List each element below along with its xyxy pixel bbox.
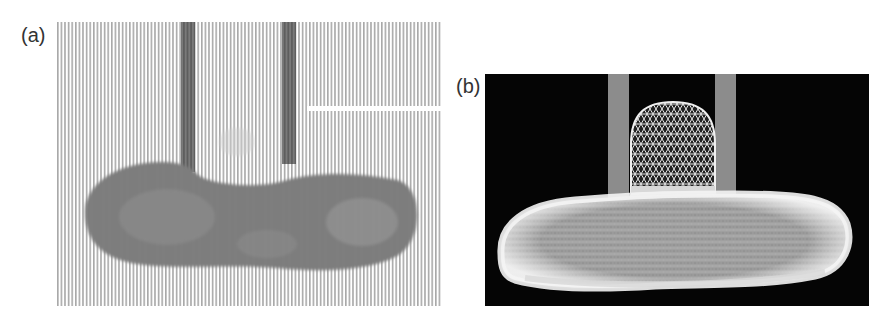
panel-a-label: (a)	[21, 25, 45, 45]
panel-b-simulation-mesh	[485, 74, 869, 306]
right-tube	[715, 74, 736, 199]
panel-a-experimental-image	[57, 22, 441, 306]
left-tube	[608, 74, 629, 199]
right-tube	[282, 22, 296, 164]
left-tube	[181, 22, 195, 172]
panel-b-label: (b)	[456, 76, 480, 96]
